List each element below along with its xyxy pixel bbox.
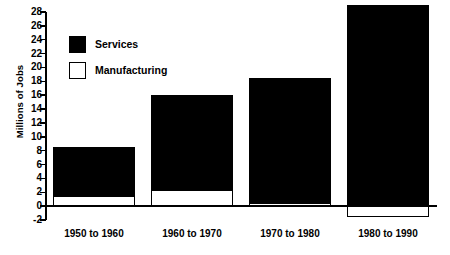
legend-label: Manufacturing: [95, 64, 167, 76]
bar-segment-services: [151, 95, 233, 190]
y-axis-tick-label: 26: [16, 21, 42, 31]
bar-segment-manufacturing: [151, 190, 233, 206]
bar-segment-manufacturing: [53, 196, 135, 206]
bar-segment-services: [347, 5, 429, 206]
x-axis-tick-label: 1960 to 1970: [142, 228, 242, 239]
bar-segment-services: [53, 147, 135, 196]
bar-segment-manufacturing: [249, 203, 331, 206]
x-axis-tick-label: 1980 to 1990: [338, 228, 438, 239]
y-axis-tick-label: 16: [16, 90, 42, 100]
y-axis-tick-label: -2: [16, 215, 42, 225]
y-axis-tick-label: 4: [16, 173, 42, 183]
legend-label: Services: [95, 38, 138, 50]
y-axis-tick-label: 18: [16, 76, 42, 86]
legend-swatch-services: [69, 36, 86, 53]
y-axis-tick-label: 10: [16, 132, 42, 142]
y-axis-tick-labels: 2826242220181614121086420-2: [14, 0, 42, 255]
stacked-bar-chart: Millions of Jobs 28262422201816141210864…: [0, 0, 450, 255]
bar-group: [347, 12, 429, 220]
y-axis-tick-label: 0: [16, 201, 42, 211]
y-axis-tick-label: 6: [16, 160, 42, 170]
x-axis-tick-label: 1950 to 1960: [44, 228, 144, 239]
chart-legend: ServicesManufacturing: [69, 33, 229, 85]
y-axis-tick-label: 24: [16, 35, 42, 45]
legend-item: Manufacturing: [69, 59, 229, 81]
legend-item: Services: [69, 33, 229, 55]
y-axis-tick-label: 28: [16, 7, 42, 17]
x-axis-tick-label: 1970 to 1980: [240, 228, 340, 239]
y-axis-tick-label: 14: [16, 104, 42, 114]
y-axis-tick-label: 22: [16, 49, 42, 59]
bar-segment-services: [249, 78, 331, 203]
bar-segment-manufacturing: [347, 206, 429, 216]
y-axis-tick-label: 12: [16, 118, 42, 128]
bar-group: [249, 12, 331, 220]
y-axis-tick-label: 20: [16, 62, 42, 72]
y-axis-tick-label: 2: [16, 187, 42, 197]
y-axis-tick-label: 8: [16, 146, 42, 156]
legend-swatch-manufacturing: [69, 62, 86, 79]
